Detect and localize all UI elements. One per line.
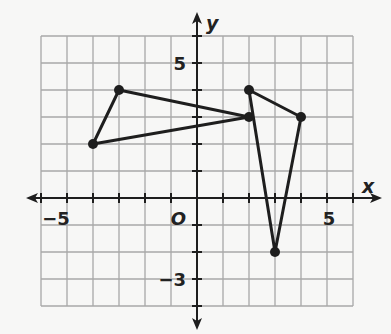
- origin-label: O: [171, 208, 186, 229]
- y-tick-label-5: 5: [173, 53, 186, 74]
- vertex-point: [114, 85, 124, 95]
- x-axis-label: x: [361, 175, 375, 197]
- vertex-point: [88, 139, 98, 149]
- y-axis-label: y: [206, 12, 220, 34]
- vertex-point: [296, 112, 306, 122]
- x-tick-label-neg5: −5: [42, 208, 70, 229]
- vertex-point: [270, 247, 280, 257]
- vertex-point: [244, 85, 254, 95]
- x-tick-label-5: 5: [323, 208, 336, 229]
- y-tick-label-neg3: −3: [158, 269, 186, 290]
- coordinate-plane: −5 5 5 −3 O x y: [0, 0, 391, 334]
